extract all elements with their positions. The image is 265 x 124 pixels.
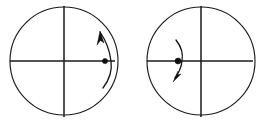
figure-canvas bbox=[0, 0, 265, 124]
arrow-head-icon bbox=[173, 71, 181, 82]
point-marker bbox=[175, 58, 181, 64]
point-marker bbox=[102, 58, 107, 63]
right-panel bbox=[147, 6, 255, 117]
left-panel bbox=[10, 6, 118, 117]
figure-container: Two circular diagrams with crosshair axe… bbox=[0, 0, 265, 124]
arrow-head-icon bbox=[97, 31, 104, 45]
